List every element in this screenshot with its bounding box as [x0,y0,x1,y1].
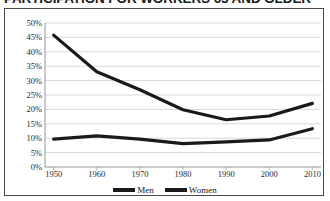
x-axis-tick-label: 1990 [206,169,246,179]
chart-frame: 50%45%40%35%30%25%20%15%10%5%0% 19501960… [4,8,324,196]
legend-swatch-men [113,188,135,192]
legend-entry-men: Men [113,185,154,195]
x-axis: 1950196019701980199020002010 [45,169,321,183]
x-axis-tick-label: 1970 [120,169,160,179]
legend-swatch-women [165,188,187,192]
chart-root: PARTICIPATION FOR WORKERS 65 AND OLDER 5… [0,0,330,201]
y-axis-tick-label: 40% [8,48,42,56]
x-axis-tick-label: 1980 [163,169,203,179]
chart-title: PARTICIPATION FOR WORKERS 65 AND OLDER [4,0,330,7]
legend-label-men: Men [137,185,154,195]
y-axis-tick-label: 45% [8,33,42,41]
series-lines [45,23,321,167]
y-axis-tick-label: 25% [8,91,42,99]
x-axis-tick-label: 1950 [34,169,74,179]
series-line-men [54,35,313,120]
x-axis-tick-label: 1960 [77,169,117,179]
x-axis-tick-label: 2000 [249,169,289,179]
chart-legend: Men Women [5,183,325,197]
y-axis-tick-label: 35% [8,62,42,70]
y-axis-tick-label: 15% [8,120,42,128]
legend-label-women: Women [189,185,217,195]
y-axis-tick-label: 20% [8,105,42,113]
y-axis-tick-label: 30% [8,77,42,85]
plot-area [45,23,321,167]
series-line-women [54,129,313,144]
y-axis-tick-label: 10% [8,134,42,142]
legend-entry-women: Women [165,185,217,195]
x-axis-tick-label: 2010 [292,169,330,179]
y-axis: 50%45%40%35%30%25%20%15%10%5%0% [5,23,42,167]
y-axis-tick-label: 5% [8,149,42,157]
y-axis-tick-label: 50% [8,19,42,27]
